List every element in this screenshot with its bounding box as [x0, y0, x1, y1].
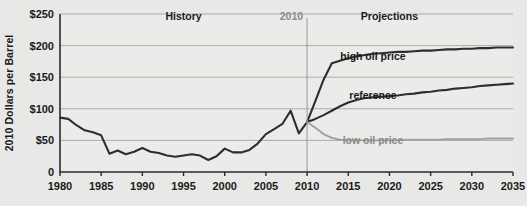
ytick-label-100: $100 [30, 103, 54, 115]
xtick-label-2025: 2025 [418, 180, 442, 192]
xtick-label-1995: 1995 [171, 180, 195, 192]
xtick-label-2030: 2030 [460, 180, 484, 192]
low-oil-price-label: low oil price [343, 134, 404, 146]
history-label: History [165, 10, 201, 22]
ytick-label-250: $250 [30, 8, 54, 20]
xtick-label-2000: 2000 [212, 180, 236, 192]
xtick-label-2005: 2005 [254, 180, 278, 192]
ytick-label-200: $200 [30, 40, 54, 52]
divider-year-label: 2010 [280, 10, 304, 22]
xtick-label-1985: 1985 [89, 180, 113, 192]
xtick-label-1990: 1990 [130, 180, 154, 192]
plot-background [60, 14, 513, 172]
projections-label: Projections [361, 10, 418, 22]
oil-price-projection-chart: 0$50$100$150$200$2502010 Dollars per Bar… [0, 0, 527, 206]
chart-canvas: 0$50$100$150$200$2502010 Dollars per Bar… [0, 0, 527, 206]
xtick-label-2015: 2015 [336, 180, 360, 192]
xtick-label-1980: 1980 [48, 180, 72, 192]
high-oil-price-label: high oil price [340, 50, 405, 62]
ytick-label-150: $150 [30, 71, 54, 83]
xtick-label-2020: 2020 [377, 180, 401, 192]
y-axis-title: 2010 Dollars per Barrel [3, 35, 15, 152]
xtick-label-2035: 2035 [501, 180, 525, 192]
xtick-label-2010: 2010 [295, 180, 319, 192]
ytick-label-50: $50 [36, 134, 54, 146]
reference-label: reference [349, 89, 396, 101]
ytick-label-0: 0 [48, 166, 54, 178]
